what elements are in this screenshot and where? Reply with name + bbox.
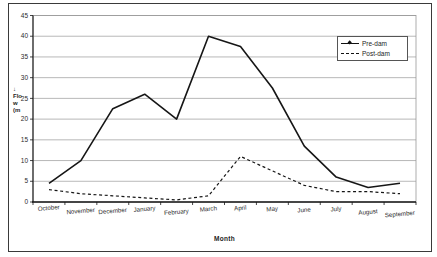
y-tick-label: 30	[21, 74, 29, 81]
y-tick-label: 5	[24, 177, 28, 184]
legend: Pre-dam Post-dam	[337, 36, 408, 61]
solid-line-marker-icon	[341, 40, 359, 47]
x-category-label: November	[66, 206, 95, 215]
y-tick-label: 45	[21, 12, 29, 19]
y-tick-label: 20	[21, 115, 29, 122]
dashed-line-icon	[341, 50, 359, 57]
x-category-label: August	[358, 207, 378, 216]
x-category-label: March	[199, 204, 217, 213]
y-tick-label: 10	[21, 157, 29, 164]
y-tick-label: 0	[24, 198, 28, 205]
y-axis-title-arrow: ↓	[13, 86, 31, 93]
x-category-label: October	[37, 203, 60, 212]
x-category-label: July	[330, 204, 342, 212]
x-category-label: September	[384, 209, 415, 219]
series-post-dam	[49, 156, 400, 200]
x-category-label: January	[133, 204, 156, 213]
flow-line-chart-figure: 051015202530354045OctoberNovemberDecembe…	[0, 0, 437, 257]
y-axis-title-line2: w	[13, 100, 31, 107]
x-category-label: December	[98, 206, 127, 215]
x-axis-title: Month	[33, 235, 416, 242]
x-category-label: April	[234, 203, 247, 211]
y-tick-label: 40	[21, 32, 29, 39]
x-category-label: February	[164, 207, 190, 216]
y-axis-title-line3: (m	[13, 107, 31, 114]
y-tick-label: 15	[21, 136, 29, 143]
y-tick-label: 35	[21, 53, 29, 60]
legend-label-post-dam: Post-dam	[362, 50, 390, 57]
legend-label-pre-dam: Pre-dam	[362, 40, 387, 47]
legend-item-pre-dam: Pre-dam	[341, 38, 404, 48]
y-axis-title: ↓ Flo w (m	[13, 86, 31, 114]
legend-item-post-dam: Post-dam	[341, 49, 404, 59]
x-category-label: June	[297, 205, 312, 213]
y-axis-title-line1: Flo	[13, 93, 31, 100]
x-category-label: May	[266, 204, 279, 212]
